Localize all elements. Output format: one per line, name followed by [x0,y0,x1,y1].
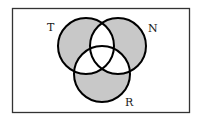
label-r: R [125,96,134,109]
venn-diagram: T N R [0,0,200,121]
label-t: T [47,21,55,34]
label-n: N [148,22,158,35]
